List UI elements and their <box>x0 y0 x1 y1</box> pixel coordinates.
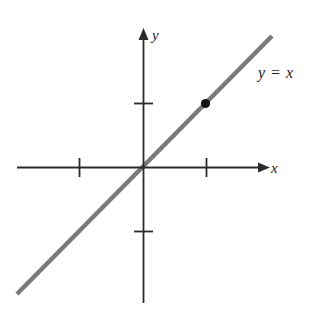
coordinate-plane-svg: x y y = x <box>0 0 323 327</box>
data-point-marker <box>201 99 210 108</box>
graph-figure: x y y = x <box>0 0 323 327</box>
y-axis-label: y <box>150 27 159 43</box>
curve-equation-label: y = x <box>256 64 294 82</box>
x-axis-label: x <box>270 160 278 176</box>
